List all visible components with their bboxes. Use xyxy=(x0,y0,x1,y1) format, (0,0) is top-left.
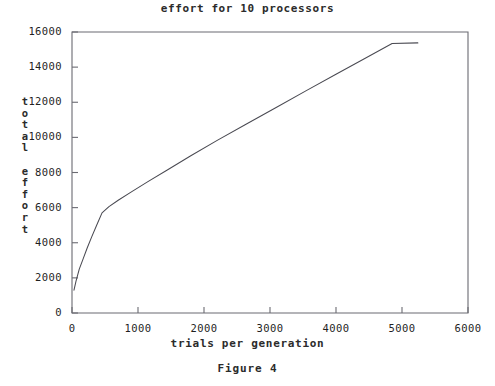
x-axis-tick-label: 5000 xyxy=(372,322,432,334)
x-axis-tick-label: 2000 xyxy=(174,322,234,334)
y-axis-title-char: t xyxy=(18,96,32,108)
x-axis-tick-label: 1000 xyxy=(108,322,168,334)
figure-root: effort for 10 processors 020004000600080… xyxy=(0,0,495,386)
y-axis-title: total.effort xyxy=(18,96,32,235)
x-axis-title: trials per generation xyxy=(0,337,495,350)
y-axis-title-char: r xyxy=(18,212,32,224)
y-axis-title-char: t xyxy=(18,224,32,236)
plot-frame xyxy=(72,32,468,313)
y-axis-tick-label: 16000 xyxy=(0,25,62,37)
x-axis-tick-label: 4000 xyxy=(306,322,366,334)
y-axis-title-char: . xyxy=(18,154,32,166)
y-axis-tick-label: 0 xyxy=(0,306,62,318)
x-axis-tick-label: 0 xyxy=(42,322,102,334)
figure-caption: Figure 4 xyxy=(0,362,495,375)
data-series-line-0 xyxy=(74,43,418,290)
y-axis-tick-label: 2000 xyxy=(0,271,62,283)
y-axis-tick-label: 4000 xyxy=(0,236,62,248)
y-axis-tick-label: 14000 xyxy=(0,60,62,72)
x-axis-tick-label: 6000 xyxy=(438,322,495,334)
y-axis-title-char: f xyxy=(18,177,32,189)
x-axis-tick-label: 3000 xyxy=(240,322,300,334)
